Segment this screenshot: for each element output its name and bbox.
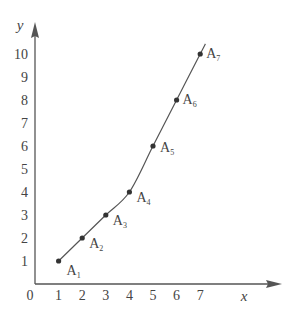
x-tick-label: 1 [55,288,62,303]
point-label-subscript: 1 [77,271,81,280]
y-tick-label: 3 [21,208,28,223]
data-point-a2 [80,235,85,240]
point-label: A1 [67,263,81,280]
x-tick-label: 7 [197,288,204,303]
point-label: A7 [206,46,220,63]
data-point-a6 [174,97,179,102]
data-point-a1 [56,258,61,263]
point-label-subscript: 5 [170,148,174,157]
y-tick-label: 2 [21,231,28,246]
axes [31,22,282,288]
point-label-subscript: 2 [99,244,103,253]
data-point-a4 [127,189,132,194]
y-tick-label: 8 [21,93,28,108]
x-tick-label: 5 [150,288,157,303]
y-tick-label: 9 [21,70,28,85]
origin-label: 0 [27,288,34,303]
point-label-subscript: 7 [216,54,220,63]
curve-line [59,44,206,261]
y-tick-label: 10 [14,47,28,62]
data-point-a7 [198,51,203,56]
y-tick-label: 7 [21,116,28,131]
y-tick-label: 5 [21,162,28,177]
chart: 0123456712345678910xy A1A2A3A4A5A6A7 [0,0,293,318]
point-label-subscript: 3 [123,221,127,230]
y-tick-label: 1 [21,254,28,269]
y-tick-label: 6 [21,139,28,154]
data-point-a5 [150,143,155,148]
point-label: A2 [89,236,103,253]
x-tick-label: 2 [79,288,86,303]
point-label: A3 [113,213,127,230]
point-label-subscript: 4 [147,198,151,207]
point-label: A4 [136,190,150,207]
point-label: A5 [160,140,174,157]
data-point-a3 [103,212,108,217]
data-points: A1A2A3A4A5A6A7 [56,46,220,280]
point-label-subscript: 6 [193,100,197,109]
x-tick-label: 3 [102,288,109,303]
point-label: A6 [183,92,197,109]
x-axis-arrow-icon [266,280,282,288]
y-axis-arrow-icon [31,22,39,38]
x-tick-label: 4 [126,288,133,303]
y-tick-label: 4 [21,185,28,200]
x-axis-label: x [240,288,248,304]
x-tick-label: 6 [173,288,180,303]
y-axis-label: y [15,17,24,33]
curve [59,44,206,261]
